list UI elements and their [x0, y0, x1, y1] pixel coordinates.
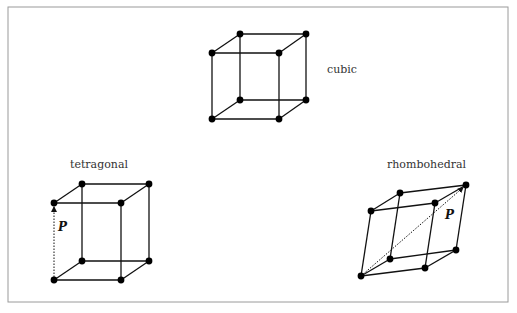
lattice-edge — [361, 268, 425, 276]
lattice-edge — [54, 261, 82, 280]
lattice-vertex-dot — [146, 181, 153, 188]
rhombohedral-lattice: Prhombohedral — [358, 158, 470, 279]
lattice-edge — [121, 261, 149, 280]
lattice-vertex-dot — [387, 256, 394, 263]
lattice-vertex-dot — [303, 97, 310, 104]
lattice-vertex-dot — [276, 50, 283, 57]
lattice-edge — [279, 34, 306, 53]
tetragonal-lattice: Ptetragonal — [51, 158, 153, 283]
lattice-vertex-dot — [79, 258, 86, 265]
lattice-vertex-dot — [237, 31, 244, 38]
lattice-vertex-dot — [422, 265, 429, 272]
lattice-vertex-dot — [237, 97, 244, 104]
lattice-edge — [54, 184, 82, 203]
lattice-edge — [212, 100, 240, 119]
lattice-vertex-dot — [118, 200, 125, 207]
lattice-vertex-dot — [51, 277, 58, 284]
lattice-edge — [279, 100, 306, 119]
lattice-edge — [400, 185, 466, 193]
tetragonal-label: tetragonal — [70, 158, 128, 171]
lattice-vertex-dot — [368, 208, 375, 215]
lattice-edge — [361, 211, 371, 276]
lattice-vertex-dot — [276, 116, 283, 123]
lattice-edge — [371, 203, 435, 211]
lattice-edge — [121, 184, 149, 203]
rhombohedral-label: rhombohedral — [387, 158, 467, 171]
polarization-arrow — [361, 188, 463, 276]
cubic-label: cubic — [327, 63, 357, 76]
lattice-vertex-dot — [209, 116, 216, 123]
lattice-edge — [390, 250, 456, 259]
lattice-edge — [212, 34, 240, 53]
lattice-vertex-dot — [397, 190, 404, 197]
lattice-vertex-dot — [209, 50, 216, 57]
lattice-vertex-dot — [303, 31, 310, 38]
figure-frame — [8, 7, 508, 302]
lattice-edge — [390, 193, 400, 259]
lattice-vertex-dot — [432, 200, 439, 207]
lattice-vertex-dot — [358, 273, 365, 280]
polarization-label: P — [444, 208, 455, 222]
lattice-vertex-dot — [118, 277, 125, 284]
polarization-label: P — [57, 220, 68, 234]
lattice-vertex-dot — [453, 247, 460, 254]
lattice-vertex-dot — [79, 181, 86, 188]
lattice-vertex-dot — [146, 258, 153, 265]
lattice-vertex-dot — [463, 182, 470, 189]
cubic-lattice: cubic — [209, 31, 357, 123]
crystal-lattice-diagram: cubic Ptetragonal Prhombohedral — [0, 0, 517, 313]
lattice-vertex-dot — [51, 200, 58, 207]
lattice-edge — [456, 185, 466, 250]
